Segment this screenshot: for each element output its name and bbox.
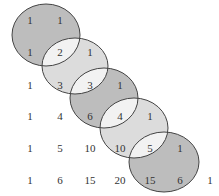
cell: 1: [87, 46, 93, 58]
cell: 20: [115, 174, 127, 186]
cell: 3: [87, 79, 93, 91]
cell: 1: [27, 110, 33, 122]
ellipses: [12, 4, 199, 192]
cell: 1: [27, 142, 33, 154]
cell: 1: [27, 174, 33, 186]
cell: 1: [27, 46, 33, 58]
cell: 3: [57, 79, 63, 91]
cell: 4: [57, 110, 63, 122]
cell: 15: [85, 174, 97, 186]
cell: 5: [147, 142, 153, 154]
pascal-triangle-diagram: 1 1 1 2 1 1 3 3 1 1 4 6 4 1 1 5 10 10 5 …: [0, 0, 219, 196]
cell: 2: [57, 46, 63, 58]
cell: 5: [57, 142, 63, 154]
cell: 1: [207, 174, 213, 186]
cell: 6: [177, 174, 183, 186]
cell: 1: [177, 142, 183, 154]
cell: 1: [117, 79, 123, 91]
cell: 1: [57, 14, 63, 26]
cell: 1: [27, 14, 33, 26]
cell: 10: [115, 142, 127, 154]
cell: 1: [27, 79, 33, 91]
cell: 10: [85, 142, 97, 154]
cell: 6: [57, 174, 63, 186]
cell: 1: [147, 110, 153, 122]
cell: 15: [145, 174, 157, 186]
cell: 4: [117, 110, 123, 122]
cell: 6: [87, 110, 93, 122]
